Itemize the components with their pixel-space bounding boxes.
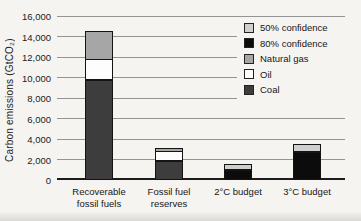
bar-segment-natural-gas — [85, 31, 113, 60]
gridline — [57, 16, 345, 17]
legend-label: Coal — [260, 84, 280, 95]
bar-segment-coal — [155, 161, 183, 180]
legend-label: 80% confidence — [260, 38, 328, 49]
x-axis-label-fossil-fuel-reserves: Fossil fuelreserves — [148, 186, 191, 210]
legend-swatch — [244, 38, 254, 48]
bar-segment-50-confidence — [224, 164, 252, 170]
y-tick-label: 4,000 — [27, 134, 57, 145]
legend-item-50-confidence: 50% confidence — [244, 22, 348, 33]
y-tick-label: 12,000 — [22, 52, 57, 63]
bar-fossil-fuel-reserves — [155, 149, 183, 180]
carbon-emissions-chart: Carbon emissions (GtCO₂) 02,0004,0006,00… — [0, 0, 361, 221]
bar-segment-oil — [155, 151, 183, 161]
y-tick-label: 10,000 — [22, 72, 57, 83]
x-axis-label-line: 3°C budget — [283, 186, 331, 198]
y-tick-label: 2,000 — [27, 154, 57, 165]
legend-item-natural-gas: Natural gas — [244, 53, 348, 64]
legend-label: 50% confidence — [260, 22, 328, 33]
x-axis-label-2-c-budget: 2°C budget — [214, 186, 262, 198]
x-axis-label-line: 2°C budget — [214, 186, 262, 198]
legend-item-80-confidence: 80% confidence — [244, 38, 348, 49]
x-axis-label-line: fossil fuels — [72, 198, 125, 210]
y-tick-label: 16,000 — [22, 11, 57, 22]
bar-segment-80-confidence — [224, 170, 252, 180]
bar-3-c-budget — [293, 145, 321, 180]
legend-item-oil: Oil — [244, 69, 348, 80]
x-axis-label-3-c-budget: 3°C budget — [283, 186, 331, 198]
y-tick-label: 14,000 — [22, 31, 57, 42]
y-axis-title: Carbon emissions (GtCO₂) — [2, 16, 16, 184]
y-tick-label: 8,000 — [27, 93, 57, 104]
x-axis-label-line: Fossil fuel — [148, 186, 191, 198]
y-tick-label: 0 — [46, 175, 57, 186]
legend: 50% confidence80% confidenceNatural gasO… — [237, 20, 348, 102]
legend-label: Oil — [260, 69, 272, 80]
x-axis-label-line: reserves — [148, 198, 191, 210]
legend-swatch — [244, 54, 254, 64]
x-axis-label-line: Recoverable — [72, 186, 125, 198]
bar-segment-coal — [85, 80, 113, 180]
legend-swatch — [244, 85, 254, 95]
legend-label: Natural gas — [260, 53, 309, 64]
bar-segment-80-confidence — [293, 152, 321, 180]
y-tick-label: 6,000 — [27, 113, 57, 124]
legend-item-coal: Coal — [244, 84, 348, 95]
bar-segment-50-confidence — [293, 144, 321, 152]
legend-swatch — [244, 69, 254, 79]
bar-segment-natural-gas — [155, 148, 183, 152]
bar-2-c-budget — [224, 165, 252, 180]
bar-recoverable-fossil-fuels — [85, 32, 113, 180]
x-axis-label-recoverable-fossil-fuels: Recoverablefossil fuels — [72, 186, 125, 210]
page-edge-shadow — [0, 211, 361, 221]
legend-swatch — [244, 23, 254, 33]
bar-segment-oil — [85, 59, 113, 79]
